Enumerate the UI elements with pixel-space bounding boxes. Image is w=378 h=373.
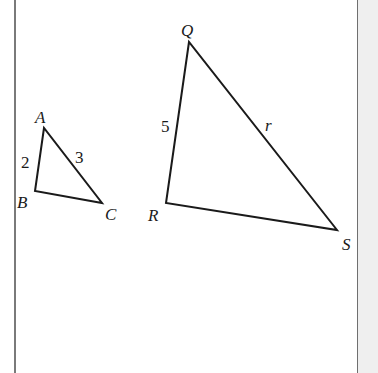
triangle-abc <box>35 128 102 203</box>
side-label-qs: r <box>265 116 272 135</box>
triangle-qrs <box>166 42 337 230</box>
side-label-ac: 3 <box>75 148 84 167</box>
vertex-label-q: Q <box>181 21 193 40</box>
vertex-label-b: B <box>17 193 28 212</box>
vertex-label-s: S <box>342 235 351 254</box>
vertex-label-c: C <box>105 205 117 224</box>
side-label-qr: 5 <box>161 117 170 136</box>
vertex-label-a: A <box>34 108 46 127</box>
similar-triangles-diagram: A B C 2 3 Q R S 5 r <box>0 0 378 373</box>
vertex-label-r: R <box>147 206 159 225</box>
side-label-ab: 2 <box>21 153 30 172</box>
